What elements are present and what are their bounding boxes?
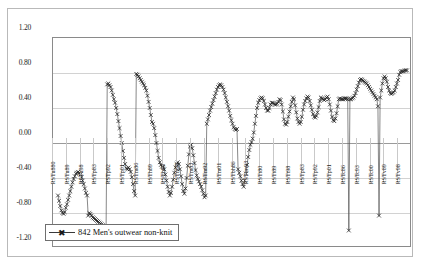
y-axis-tick-label: -1.20 bbox=[0, 234, 31, 242]
data-point-marker bbox=[214, 91, 218, 95]
data-point-marker bbox=[109, 85, 113, 89]
data-point-marker bbox=[395, 82, 399, 86]
data-point-marker bbox=[189, 143, 193, 147]
data-point-marker bbox=[231, 122, 235, 126]
chart-outer-frame: 1.200.800.400.00-0.40-0.80-1.20 RSTu880R… bbox=[7, 8, 413, 257]
y-axis-tick-label: 0.40 bbox=[0, 94, 31, 102]
x-marker-icon: ✖ bbox=[58, 228, 66, 238]
y-axis-tick-label: 0.80 bbox=[0, 59, 31, 67]
y-axis-tick-label: -0.80 bbox=[0, 199, 31, 207]
y-axis-tick-label: 1.20 bbox=[0, 24, 31, 32]
data-point-marker bbox=[393, 89, 397, 93]
series-markers bbox=[56, 68, 409, 232]
y-axis-tick-label: -0.40 bbox=[0, 164, 31, 172]
data-point-marker bbox=[81, 179, 85, 183]
data-point-marker bbox=[355, 88, 359, 92]
series-842-line bbox=[53, 38, 411, 247]
data-point-marker bbox=[209, 105, 213, 109]
data-point-marker bbox=[237, 171, 241, 175]
data-point-marker bbox=[210, 102, 214, 106]
data-point-marker bbox=[200, 188, 204, 192]
data-point-marker bbox=[384, 76, 388, 80]
data-point-marker bbox=[263, 103, 267, 107]
data-point-marker bbox=[212, 98, 216, 102]
chart-screenshot: 1.200.800.400.00-0.40-0.80-1.20 RSTu880R… bbox=[0, 0, 421, 265]
data-point-marker bbox=[394, 85, 398, 89]
legend-marker-icon: ✖ bbox=[49, 228, 75, 238]
y-axis-tick-label: 0.00 bbox=[0, 129, 31, 137]
data-point-marker bbox=[356, 84, 360, 88]
legend: ✖ 842 Men's outwear non-knit bbox=[45, 224, 179, 241]
plot-area bbox=[52, 37, 411, 247]
data-point-marker bbox=[213, 95, 217, 99]
legend-entry-label: 842 Men's outwear non-knit bbox=[78, 228, 172, 237]
